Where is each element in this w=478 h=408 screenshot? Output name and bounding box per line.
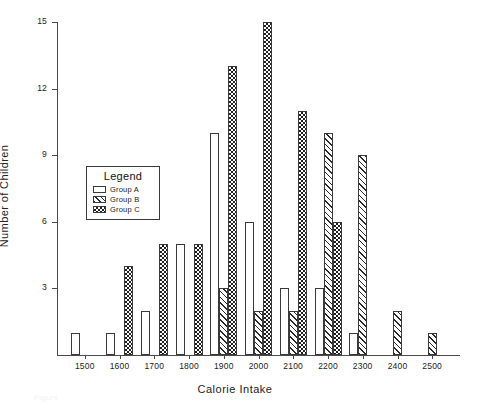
figure-histogram: Number of Children 3691215 1500160017001… — [0, 0, 478, 408]
x-tick-mark-1600 — [120, 355, 121, 359]
bar-group-c-2100 — [298, 111, 307, 355]
x-tick-label-1500: 1500 — [68, 361, 102, 371]
x-tick-mark-1700 — [154, 355, 155, 359]
x-tick-mark-1500 — [85, 355, 86, 359]
x-tick-mark-2100 — [293, 355, 294, 359]
legend-swatch-group-a — [93, 186, 106, 193]
x-tick-label-2300: 2300 — [346, 361, 380, 371]
legend-title: Legend — [93, 170, 153, 182]
y-tick-mark-15 — [52, 22, 57, 23]
bar-group-c-2200 — [333, 222, 342, 355]
legend-entry-group-a: Group A — [93, 185, 153, 194]
legend: Legend Group A Group B Group C — [86, 166, 160, 220]
bar-group-a-2100 — [280, 288, 289, 355]
x-tick-label-1800: 1800 — [172, 361, 206, 371]
bar-group-c-2000 — [263, 22, 272, 355]
bar-group-b-1900 — [219, 288, 228, 355]
legend-entry-group-b: Group B — [93, 195, 153, 204]
x-tick-mark-1900 — [224, 355, 225, 359]
bar-group-b-2400 — [393, 311, 402, 355]
legend-swatch-group-c — [93, 206, 106, 213]
legend-label-group-a: Group A — [110, 185, 139, 194]
y-tick-label-9: 9 — [25, 149, 47, 159]
x-tick-label-1700: 1700 — [137, 361, 171, 371]
y-tick-mark-9 — [52, 155, 57, 156]
y-tick-label-15: 15 — [25, 16, 47, 26]
bar-series-layer — [0, 0, 478, 408]
bar-group-c-1700 — [159, 244, 168, 355]
bar-group-c-1600 — [124, 266, 133, 355]
bar-group-a-2200 — [315, 288, 324, 355]
legend-label-group-c: Group C — [110, 205, 140, 214]
y-tick-mark-12 — [52, 89, 57, 90]
bar-group-a-1700 — [141, 311, 150, 355]
bar-group-b-2500 — [428, 333, 437, 355]
x-tick-mark-2500 — [432, 355, 433, 359]
y-tick-label-3: 3 — [25, 282, 47, 292]
y-tick-label-12: 12 — [25, 83, 47, 93]
bar-group-a-2300 — [349, 333, 358, 355]
x-tick-mark-2000 — [259, 355, 260, 359]
bar-group-a-1500 — [71, 333, 80, 355]
bar-group-b-2300 — [358, 155, 367, 355]
bar-group-c-1800 — [194, 244, 203, 355]
y-tick-mark-3 — [52, 288, 57, 289]
figure-caption: Figure — [34, 393, 58, 402]
x-tick-label-2500: 2500 — [415, 361, 449, 371]
bar-group-c-1900 — [228, 66, 237, 355]
bar-group-a-1800 — [176, 244, 185, 355]
bar-group-b-2200 — [324, 133, 333, 355]
x-tick-mark-2300 — [363, 355, 364, 359]
y-tick-label-6: 6 — [25, 216, 47, 226]
legend-label-group-b: Group B — [110, 195, 139, 204]
x-tick-mark-2200 — [328, 355, 329, 359]
bar-group-a-2000 — [245, 222, 254, 355]
bar-group-b-2100 — [289, 311, 298, 355]
bar-group-b-2000 — [254, 311, 263, 355]
x-tick-mark-2400 — [398, 355, 399, 359]
legend-swatch-group-b — [93, 196, 106, 203]
bar-group-a-1900 — [210, 133, 219, 355]
x-tick-label-2100: 2100 — [276, 361, 310, 371]
x-tick-mark-1800 — [189, 355, 190, 359]
x-tick-label-2400: 2400 — [381, 361, 415, 371]
x-axis-title: Calorie Intake — [70, 383, 400, 395]
x-tick-label-2000: 2000 — [242, 361, 276, 371]
bar-group-a-1600 — [106, 333, 115, 355]
x-tick-label-2200: 2200 — [311, 361, 345, 371]
x-tick-label-1600: 1600 — [103, 361, 137, 371]
x-tick-label-1900: 1900 — [207, 361, 241, 371]
legend-entry-group-c: Group C — [93, 205, 153, 214]
y-tick-mark-6 — [52, 222, 57, 223]
